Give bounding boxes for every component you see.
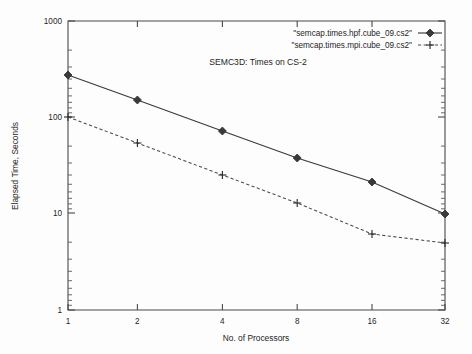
legend-sample-mpi — [418, 41, 442, 49]
x-tick-label: 2 — [135, 317, 140, 326]
series-hpf — [64, 71, 449, 218]
y-axis-minor-ticks — [68, 50, 445, 305]
x-tick-label: 16 — [367, 317, 377, 326]
x-tick-label: 8 — [295, 317, 300, 326]
x-tick-labels: 1 2 4 8 16 32 — [66, 317, 450, 326]
log-log-line-chart: 1000 100 10 1 1 2 4 8 16 32 No. of Proce… — [0, 0, 472, 354]
legend-label-mpi: "semcap.times.mpi.cube_09.cs2" — [292, 41, 413, 50]
legend-sample-hpf — [418, 29, 442, 37]
plot-title: SEMC3D: Times on CS-2 — [209, 57, 307, 67]
x-tick-label: 1 — [66, 317, 71, 326]
x-axis-title: No. of Processors — [223, 333, 290, 343]
x-tick-label: 32 — [440, 317, 450, 326]
legend-label-hpf: "semcap.times.hpf.cube_09.cs2" — [293, 29, 412, 38]
x-tick-label: 4 — [220, 317, 225, 326]
y-tick-label: 10 — [53, 209, 63, 218]
y-axis-title: Elapsed Time, Seconds — [10, 122, 20, 210]
series-mpi-markers — [64, 113, 449, 247]
legend: "semcap.times.hpf.cube_09.cs2" "semcap.t… — [292, 29, 443, 50]
y-tick-label: 1000 — [44, 17, 63, 26]
series-mpi — [64, 113, 449, 247]
chart-figure: 1000 100 10 1 1 2 4 8 16 32 No. of Proce… — [0, 0, 472, 354]
y-tick-label: 1 — [57, 306, 62, 315]
series-hpf-markers — [64, 71, 449, 218]
y-tick-labels: 1000 100 10 1 — [44, 17, 63, 315]
y-tick-label: 100 — [48, 113, 62, 122]
